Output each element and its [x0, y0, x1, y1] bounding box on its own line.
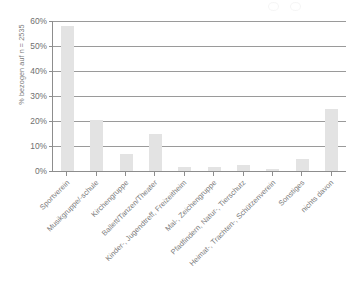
bar [61, 26, 74, 171]
x-axis-tick-label-text: Musikgruppe/-schule [45, 176, 102, 233]
y-tick-label: 50% [30, 41, 47, 51]
x-axis-labels: SportvereinMusikgruppe/-schuleKirchengru… [52, 176, 346, 298]
scan-artifact-one [268, 2, 279, 11]
y-tick-label: 20% [30, 116, 47, 126]
y-axis-title: % bezogen auf n = 2535 [17, 0, 26, 130]
x-axis-tick-label-text: Mal-, Zeichengruppe [163, 176, 220, 233]
bar-slot [317, 21, 346, 171]
y-tick-label: 10% [30, 141, 47, 151]
scan-artifact-two [290, 2, 301, 11]
y-tick-label: 30% [30, 91, 47, 101]
bar-chart: % bezogen auf n = 2535 0%10%20%30%40%50%… [0, 0, 353, 298]
y-tick-label: 0% [35, 166, 47, 176]
bar-slot [53, 21, 82, 171]
y-tick-label: 60% [30, 16, 47, 26]
y-tick-label: 40% [30, 66, 47, 76]
